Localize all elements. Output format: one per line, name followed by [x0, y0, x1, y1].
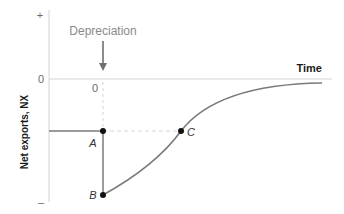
point-c-label: C [187, 126, 195, 138]
x-axis-label: Time [297, 62, 322, 74]
point-a-marker [100, 128, 106, 134]
arrow-head-icon [99, 63, 107, 71]
point-c-marker [178, 128, 184, 134]
y-tick-zero: 0 [38, 73, 44, 85]
y-axis-label: Net exports, NX [19, 94, 30, 169]
x-tick-zero: 0 [92, 82, 98, 94]
net-exports-j-curve-chart: + 0 – 0 Time Net exports, NX Depreciatio… [0, 0, 344, 214]
point-b-marker [100, 192, 106, 198]
j-curve-path [103, 83, 322, 195]
y-tick-plus: + [37, 9, 43, 21]
point-a-label: A [88, 137, 96, 149]
y-tick-minus: – [38, 196, 45, 208]
depreciation-annotation: Depreciation [69, 24, 136, 38]
point-b-label: B [89, 189, 96, 201]
